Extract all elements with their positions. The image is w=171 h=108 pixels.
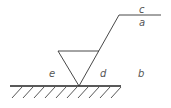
- surface-ground: [10, 86, 121, 98]
- long-leg-and-extension: [79, 15, 161, 86]
- label-c: c: [139, 4, 145, 15]
- label-b: b: [138, 68, 144, 79]
- label-a: a: [139, 17, 145, 28]
- ground-hatching: [12, 87, 121, 98]
- roughness-symbol-diagram: c a e d b: [0, 0, 171, 108]
- roughness-symbol: [58, 15, 161, 86]
- label-e: e: [49, 68, 55, 79]
- short-leg: [58, 51, 79, 86]
- label-d: d: [100, 68, 107, 79]
